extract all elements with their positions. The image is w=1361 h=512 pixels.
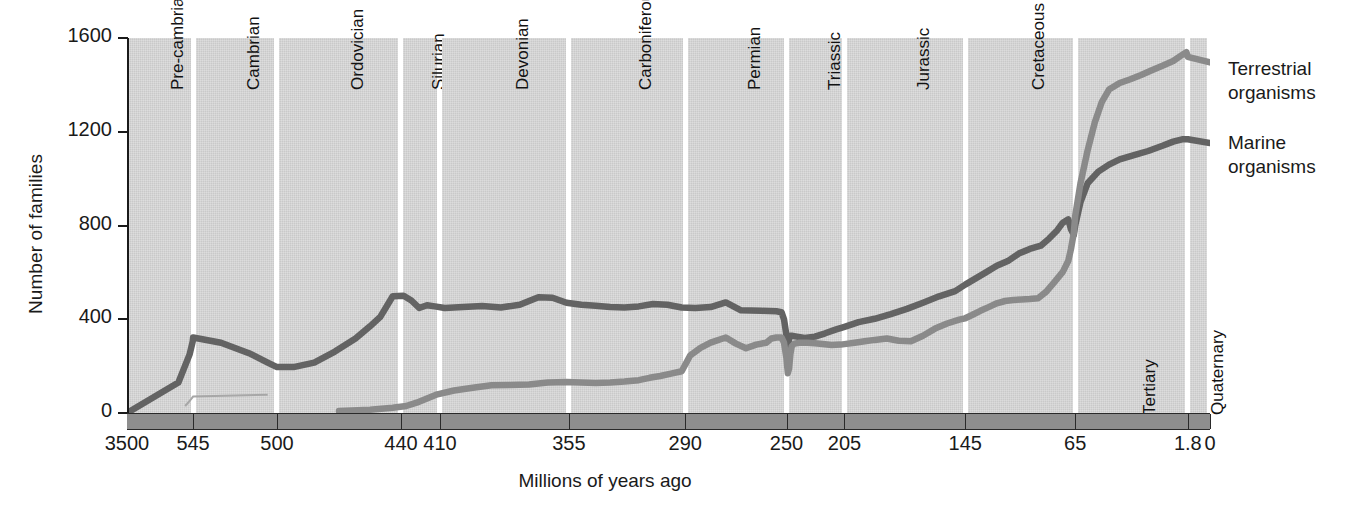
time-bar-segment <box>787 414 846 429</box>
y-tick-label: 800 <box>40 212 112 235</box>
x-tick-label: 65 <box>1030 432 1120 455</box>
y-tick-label: 1600 <box>40 24 112 47</box>
legend-marine-line2: organisms <box>1228 155 1316 179</box>
y-axis-title: Number of families <box>22 0 52 110</box>
x-tick-label: 205 <box>799 432 889 455</box>
line-terrestrial-organisms <box>339 52 1210 411</box>
y-tick-label: 1200 <box>40 118 112 141</box>
x-axis-title: Millions of years ago <box>0 470 1210 492</box>
time-bar-segment <box>127 414 194 429</box>
time-bar-segment <box>569 414 686 429</box>
x-tick-label: 500 <box>232 432 322 455</box>
x-tick-label: 545 <box>148 432 238 455</box>
y-tick-label: 400 <box>40 305 112 328</box>
y-axis-line <box>127 38 129 415</box>
series-lines <box>127 38 1210 413</box>
time-bar-segment <box>1188 414 1211 429</box>
time-bar-segment <box>277 414 402 429</box>
x-tick-label: 290 <box>640 432 730 455</box>
time-bar-segment <box>844 414 966 429</box>
x-tick-label: 410 <box>395 432 485 455</box>
x-tick-label: 0 <box>1165 432 1255 455</box>
y-tick-label: 0 <box>40 399 112 422</box>
time-bar-segment <box>193 414 278 429</box>
legend-terrestrial: Terrestrial organisms <box>1228 57 1316 105</box>
time-bar-segment <box>685 414 787 429</box>
x-tick-label: 145 <box>920 432 1010 455</box>
geologic-time-bar <box>127 413 1210 430</box>
time-bar-segment <box>965 414 1076 429</box>
chart-figure: Number of families 040080012001600 Pre-c… <box>0 0 1361 512</box>
time-bar-segment <box>401 414 441 429</box>
x-tick-label: 355 <box>524 432 614 455</box>
legend-marine-line1: Marine <box>1228 131 1316 155</box>
plot-area: Pre-cambrianCambrianOrdovicianSilurianDe… <box>127 38 1210 413</box>
time-bar-segment <box>1075 414 1189 429</box>
legend-terrestrial-line2: organisms <box>1228 81 1316 105</box>
line-early-terrestrial-trace <box>185 395 268 406</box>
period-label-quaternary: Quaternary <box>1208 330 1228 415</box>
legend-marine: Marine organisms <box>1228 131 1316 179</box>
time-bar-segment <box>440 414 570 429</box>
legend-terrestrial-line1: Terrestrial <box>1228 57 1316 81</box>
